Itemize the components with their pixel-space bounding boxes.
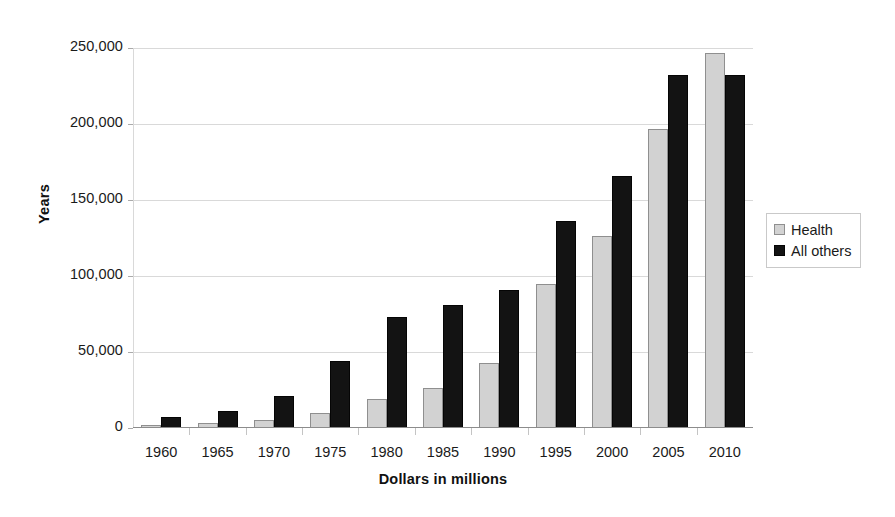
legend-item-all-others[interactable]: All others — [774, 240, 851, 261]
bar-chart-figure: Years 050,000100,000150,000200,000250,00… — [0, 0, 895, 517]
bar-health-1980 — [367, 399, 387, 428]
bar-all-others-1985 — [443, 305, 463, 428]
x-tick-mark — [358, 428, 359, 435]
x-tick-mark — [640, 428, 641, 435]
bar-all-others-1995 — [556, 221, 576, 428]
bar-health-1990 — [479, 363, 499, 428]
x-tick-label-1970: 1970 — [244, 444, 304, 460]
y-tick-label: 100,000 — [70, 266, 123, 282]
y-axis-line — [133, 48, 134, 428]
gridline — [133, 48, 753, 49]
bar-all-others-1965 — [218, 411, 238, 428]
plot-area — [133, 48, 753, 428]
bar-all-others-1980 — [387, 317, 407, 428]
y-tick-label: 0 — [115, 418, 123, 434]
x-tick-label-1995: 1995 — [526, 444, 586, 460]
x-tick-label-1965: 1965 — [188, 444, 248, 460]
bar-all-others-2010 — [725, 75, 745, 428]
x-tick-label-2010: 2010 — [695, 444, 755, 460]
gridline — [133, 124, 753, 125]
chart-legend: Health All others — [766, 213, 861, 268]
x-tick-label-2005: 2005 — [638, 444, 698, 460]
bar-health-2000 — [592, 236, 612, 428]
x-tick-label-1980: 1980 — [357, 444, 417, 460]
y-tick-label: 200,000 — [70, 114, 123, 130]
x-axis-title: Dollars in millions — [133, 471, 753, 487]
x-tick-mark — [471, 428, 472, 435]
y-tick-label: 250,000 — [70, 38, 123, 54]
bar-health-1975 — [310, 413, 330, 428]
x-tick-mark — [302, 428, 303, 435]
x-tick-label-1960: 1960 — [131, 444, 191, 460]
bar-all-others-1990 — [499, 290, 519, 428]
bar-all-others-2000 — [612, 176, 632, 428]
y-tick-label: 50,000 — [78, 342, 123, 358]
y-axis-title: Years — [36, 184, 52, 224]
legend-item-health[interactable]: Health — [774, 219, 851, 240]
x-tick-mark — [528, 428, 529, 435]
bar-health-2005 — [648, 129, 668, 428]
x-tick-mark — [246, 428, 247, 435]
x-tick-mark — [415, 428, 416, 435]
x-tick-mark — [189, 428, 190, 435]
x-tick-mark — [584, 428, 585, 435]
x-axis-line — [133, 427, 753, 428]
x-tick-label-1975: 1975 — [300, 444, 360, 460]
bar-all-others-1970 — [274, 396, 294, 428]
x-tick-label-2000: 2000 — [582, 444, 642, 460]
legend-label-all-others: All others — [791, 243, 851, 259]
bar-all-others-2005 — [668, 75, 688, 428]
y-tick-label: 150,000 — [70, 190, 123, 206]
legend-label-health: Health — [791, 222, 833, 238]
bar-health-2010 — [705, 53, 725, 428]
bar-all-others-1975 — [330, 361, 350, 428]
x-tick-label-1985: 1985 — [413, 444, 473, 460]
bar-health-1985 — [423, 388, 443, 428]
legend-swatch-health-icon — [774, 224, 785, 235]
legend-swatch-all-others-icon — [774, 245, 785, 256]
bar-health-1995 — [536, 284, 556, 428]
x-tick-label-1990: 1990 — [469, 444, 529, 460]
y-tick-mark — [128, 428, 133, 429]
x-tick-mark — [697, 428, 698, 435]
